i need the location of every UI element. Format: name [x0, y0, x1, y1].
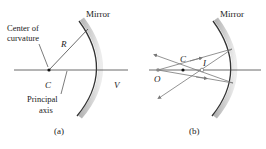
object-label: O	[154, 74, 161, 84]
mirror-label: Mirror	[86, 9, 110, 19]
incident-ray-lower	[158, 70, 233, 83]
panel-a: Mirror Center of curvature R C V Princip…	[7, 9, 128, 136]
caption-b: (b)	[189, 126, 200, 136]
panel-b: Mirror C O I (b)	[149, 9, 261, 136]
object-point	[156, 68, 160, 72]
mirror-label: Mirror	[220, 9, 244, 19]
axis-label-line1: Principal	[27, 94, 58, 104]
incident-arrow-upper	[190, 58, 201, 61]
center-point-label: C	[180, 54, 187, 64]
center-point-dot	[181, 68, 184, 71]
image-point	[200, 68, 204, 72]
vertex-label: V	[114, 80, 121, 90]
center-point-label: C	[45, 80, 52, 90]
radius-line	[49, 29, 88, 70]
center-leader-line	[39, 44, 48, 67]
reflected-ray-lower	[155, 55, 233, 83]
axis-leader-line	[61, 71, 67, 94]
radius-label: R	[60, 39, 67, 49]
caption-a: (a)	[54, 126, 64, 136]
center-point-dot	[47, 68, 50, 71]
axis-label-line2: axis	[39, 105, 53, 115]
concave-mirror-diagram: Mirror Center of curvature R C V Princip…	[0, 0, 266, 149]
mirror-backing	[215, 19, 235, 117]
reflected-ray-upper	[159, 49, 232, 98]
center-label-line1: Center of	[7, 23, 39, 33]
center-label-line2: curvature	[7, 33, 39, 43]
